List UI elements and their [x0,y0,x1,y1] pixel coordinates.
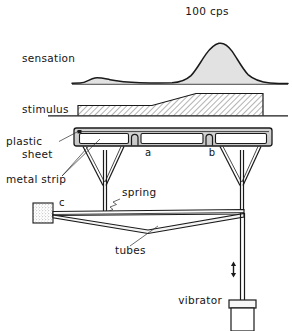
metal-strip-center [141,134,203,144]
label-b: b [209,147,215,158]
stimulus-hatch-fill [78,94,263,116]
tube-left-b [106,147,124,186]
sensation-trace [72,43,288,84]
tube-right-a [220,147,240,186]
spring-squiggle-leader [107,199,121,212]
tube-right-b [243,147,261,186]
tube-left-a-inner [86,147,105,183]
spring-plate-lower [53,214,244,234]
spring-plate [53,210,244,234]
tube-left-b-inner [105,147,121,183]
cps-annotation: 100 cps [185,5,228,17]
mount-c-body [33,203,53,223]
label-a: a [145,147,151,158]
tube-right-a-inner [223,147,242,183]
vibrator-assembly: vibrator [178,213,256,331]
tube-left-a [83,147,103,186]
vibrator-label: vibrator [178,294,222,306]
tube-right-b-inner [242,147,258,183]
plastic-sheet-anchor-dot [78,130,82,133]
vibrator-body [231,308,254,331]
apparatus-and-traces-figure: 100 cps sensation stimulus a b [0,0,292,331]
plastic-label: plastic [6,135,42,147]
sensation-label: sensation [22,52,75,64]
spring-label: spring [122,186,157,198]
metal-strip-label: metal strip [6,173,66,185]
figure-container: 100 cps sensation stimulus a b [0,0,292,331]
tubes-assembly [83,147,261,214]
metal-strip-leader-2 [62,147,88,176]
motion-arrow-icon [231,262,236,278]
label-c: c [59,197,65,208]
metal-strip-left [80,134,129,144]
metal-strip-right [216,134,267,144]
stimulus-trace [48,94,288,116]
sheet-label: sheet [22,148,53,160]
sensation-curve [72,43,288,83]
stimulus-label: stimulus [22,103,69,115]
vibrator-cap [229,300,256,308]
